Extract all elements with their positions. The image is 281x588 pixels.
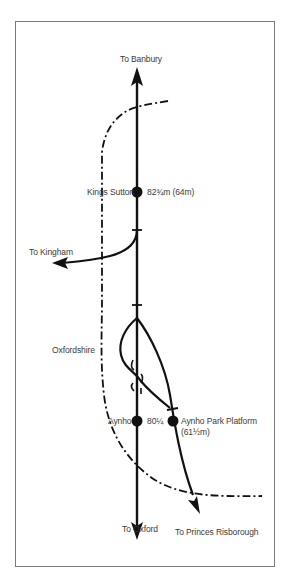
diagram-canvas: To Banbury Kings Sutton 82¾m (64m) To Ki… — [0, 0, 281, 588]
region-label-oxfordshire: Oxfordshire — [52, 345, 95, 355]
station-label-aynho: Aynho — [108, 416, 131, 426]
mileage-aynho-park-platform: (61½m) — [181, 427, 210, 437]
destination-kingham: To Kingham — [29, 247, 73, 257]
arrow-down-right-icon — [188, 496, 200, 514]
destination-oxford: To Oxford — [122, 524, 158, 534]
mileage-kings-sutton: 82¾m (64m) — [147, 187, 194, 197]
station-aynho — [132, 416, 143, 427]
railway-map — [0, 0, 281, 588]
destination-banbury: To Banbury — [120, 54, 162, 64]
station-aynho-park-platform — [168, 416, 179, 427]
kingham-branch — [62, 230, 137, 263]
station-label-kings-sutton: Kings Sutton — [87, 187, 134, 197]
destination-princes-risborough: To Princes Risborough — [175, 527, 258, 537]
mileage-aynho: 80¼ — [147, 416, 163, 426]
station-label-aynho-park-platform: Aynho Park Platform — [181, 416, 257, 426]
princes-risborough-line — [137, 318, 193, 495]
